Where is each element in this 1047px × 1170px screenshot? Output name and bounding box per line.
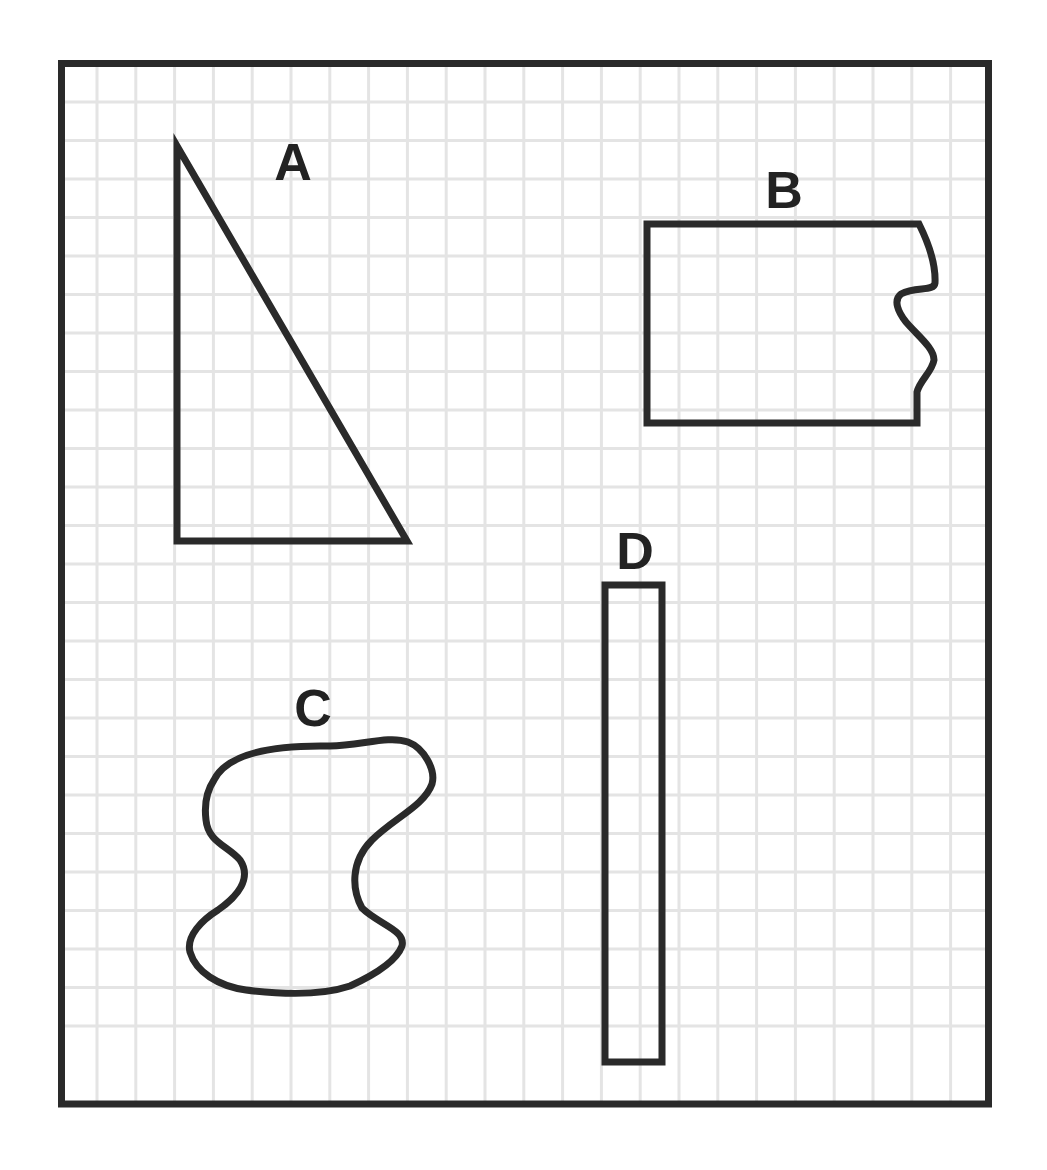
shape-b-label: B bbox=[765, 161, 803, 219]
shape-a-label: A bbox=[274, 133, 312, 191]
shape-c-label: C bbox=[294, 679, 332, 737]
shape-d-label: D bbox=[616, 522, 654, 580]
diagram-canvas: A B C D bbox=[0, 0, 1047, 1170]
